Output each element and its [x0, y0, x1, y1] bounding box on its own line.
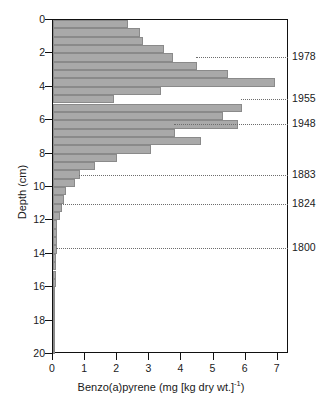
y-tick — [45, 353, 52, 354]
y-tick-label: 18 — [33, 314, 45, 326]
bar — [53, 296, 55, 304]
annotation-year-label: 1824 — [292, 197, 316, 209]
bar — [53, 162, 95, 170]
bar — [53, 70, 228, 78]
y-tick — [45, 52, 52, 53]
x-tick-label: 5 — [210, 362, 216, 374]
bar — [53, 104, 242, 112]
bar — [53, 321, 55, 329]
y-tick-label: 2 — [39, 46, 45, 58]
bar — [53, 346, 55, 354]
plot-area — [52, 19, 288, 353]
bar — [53, 220, 57, 228]
x-tick — [148, 353, 149, 360]
y-tick-label: 10 — [33, 180, 45, 192]
x-tick — [52, 353, 53, 360]
y-tick — [45, 86, 52, 87]
bar — [53, 87, 161, 95]
annotation-leader-line — [196, 57, 288, 58]
x-tick — [84, 353, 85, 360]
x-tick — [213, 353, 214, 360]
bar — [53, 154, 117, 162]
bar — [53, 45, 164, 53]
bar — [53, 279, 56, 287]
x-tick — [245, 353, 246, 360]
y-tick-label: 14 — [33, 247, 45, 259]
y-tick-label: 20 — [33, 347, 45, 359]
annotation-year-label: 1978 — [292, 50, 316, 62]
x-tick-label: 3 — [145, 362, 151, 374]
bar — [53, 287, 55, 295]
bar — [53, 212, 60, 220]
x-tick-label: 1 — [81, 362, 87, 374]
chart-figure: Depth (cm) 02468101214161820 19781955194… — [0, 0, 322, 406]
x-tick — [277, 353, 278, 360]
y-tick-label: 0 — [39, 13, 45, 25]
bar — [53, 53, 173, 61]
bar — [53, 237, 57, 245]
bar — [53, 145, 151, 153]
y-tick-label: 6 — [39, 113, 45, 125]
x-tick — [180, 353, 181, 360]
bar — [53, 254, 56, 262]
x-tick-label: 0 — [49, 362, 55, 374]
bar — [53, 137, 201, 145]
bar — [53, 28, 140, 36]
annotation-year-label: 1955 — [292, 92, 316, 104]
bar — [53, 95, 114, 103]
bar — [53, 304, 55, 312]
annotation-leader-line — [241, 99, 288, 100]
bar — [53, 78, 275, 86]
y-tick-label: 12 — [33, 213, 45, 225]
annotation-leader-line — [174, 124, 288, 125]
y-tick-label: 4 — [39, 80, 45, 92]
y-tick — [45, 119, 52, 120]
bar — [53, 262, 56, 270]
x-axis-title-superscript: -1 — [234, 379, 241, 388]
annotation-year-label: 1883 — [292, 168, 316, 180]
bar — [53, 312, 55, 320]
y-tick — [45, 186, 52, 187]
x-tick-label: 2 — [113, 362, 119, 374]
x-tick-label: 4 — [178, 362, 184, 374]
y-tick — [45, 320, 52, 321]
x-tick — [116, 353, 117, 360]
bar — [53, 329, 55, 337]
x-axis-title-tail: ) — [241, 381, 245, 393]
bar — [53, 129, 175, 137]
bar — [53, 195, 64, 203]
bar — [53, 112, 223, 120]
bar — [53, 271, 56, 279]
y-tick-label: 8 — [39, 147, 45, 159]
x-tick-label: 6 — [242, 362, 248, 374]
x-axis-title: Benzo(a)pyrene (mg [kg dry wt.]-1) — [0, 379, 322, 393]
bar — [53, 337, 55, 345]
y-axis-title: Depth (cm) — [16, 132, 28, 252]
bar — [53, 170, 80, 178]
bar — [53, 245, 57, 253]
annotation-leader-line — [61, 204, 288, 205]
bar — [53, 37, 143, 45]
annotation-year-label: 1800 — [292, 241, 316, 253]
bar — [53, 187, 66, 195]
y-tick — [45, 19, 52, 20]
annotation-leader-line — [79, 175, 288, 176]
bar — [53, 20, 128, 28]
bar — [53, 229, 57, 237]
annotation-leader-line — [56, 248, 288, 249]
y-tick — [45, 153, 52, 154]
x-tick-label: 7 — [274, 362, 280, 374]
annotation-year-label: 1948 — [292, 117, 316, 129]
bar — [53, 204, 62, 212]
bar — [53, 179, 75, 187]
y-tick — [45, 286, 52, 287]
x-axis-title-main: Benzo(a)pyrene (mg [kg dry wt.] — [78, 381, 235, 393]
y-tick — [45, 219, 52, 220]
y-tick — [45, 253, 52, 254]
bar — [53, 62, 197, 70]
y-tick-label: 16 — [33, 280, 45, 292]
